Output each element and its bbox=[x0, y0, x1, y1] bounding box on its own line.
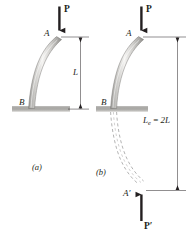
panel-a-length-label: L bbox=[73, 68, 78, 77]
panel-a-column bbox=[29, 37, 62, 109]
panel-a-load-label: P bbox=[64, 5, 70, 15]
column-buckling-figure: P A B L (a) P A B A′ P′ Le = 2L (b) bbox=[0, 0, 191, 240]
panel-a-caption: (a) bbox=[32, 163, 42, 172]
panel-a-point-b-label: B bbox=[19, 98, 25, 107]
panel-b-point-a-label: A bbox=[126, 29, 132, 38]
panel-b-effective-length-label: Le = 2L bbox=[143, 116, 170, 126]
panel-b-point-a-prime-label: A′ bbox=[123, 189, 130, 198]
panel-b-group bbox=[96, 7, 186, 222]
panel-b-support bbox=[96, 107, 148, 112]
effective-length-value: 2L bbox=[160, 115, 170, 125]
panel-b-mirror-dashed-column bbox=[111, 112, 144, 184]
panel-b-point-b-label: B bbox=[101, 98, 107, 107]
panel-b-dimension-line bbox=[176, 38, 180, 190]
panel-a-support bbox=[12, 107, 70, 112]
panel-b-caption: (b) bbox=[96, 168, 106, 177]
panel-b-load-label: P bbox=[146, 5, 152, 15]
panel-b-column bbox=[111, 37, 144, 109]
panel-a-group bbox=[12, 7, 89, 112]
panel-a-dimension-line bbox=[79, 38, 83, 109]
panel-a-point-a-label: A bbox=[44, 29, 50, 38]
panel-b-extension-lines bbox=[143, 37, 186, 191]
panel-b-mirror-load-label: P′ bbox=[144, 222, 152, 232]
